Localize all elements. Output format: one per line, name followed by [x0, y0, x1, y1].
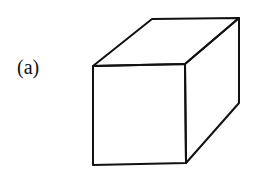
cube-front-face [93, 64, 186, 165]
cube-right-face [185, 18, 239, 163]
cube-drawing [0, 0, 259, 179]
cube-top-face [93, 18, 239, 66]
